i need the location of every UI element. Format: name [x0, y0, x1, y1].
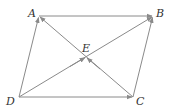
vector-DB — [19, 17, 152, 97]
label-A: A — [27, 7, 36, 20]
vector-CE — [87, 58, 100, 69]
vector-CB — [133, 18, 153, 98]
vector-DA — [19, 18, 39, 98]
parallelogram-diagram: A B E D C — [0, 0, 169, 109]
label-B: B — [155, 7, 164, 20]
vector-DE — [70, 58, 85, 67]
vector-CA — [40, 17, 133, 97]
label-C: C — [136, 95, 145, 108]
label-E: E — [81, 42, 90, 55]
label-D: D — [5, 95, 15, 108]
